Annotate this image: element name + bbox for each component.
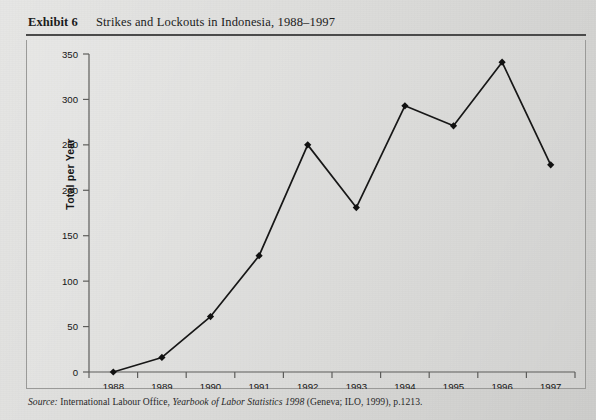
source-prefix: Source:: [28, 396, 58, 407]
y-axis-tick-label: 300: [62, 94, 78, 105]
data-point-markers: 1988: 01989: 161990: 611991: 1281992: 25…: [110, 59, 555, 376]
title-horizontal-rule: [26, 34, 586, 36]
x-axis-tick-label: 1993: [346, 381, 367, 389]
source-publisher: International Labour Office,: [60, 396, 170, 407]
data-point-marker: 1994: 293: [401, 102, 408, 109]
source-note: Source: International Labour Office, Yea…: [28, 396, 573, 407]
data-point-marker: 1997: 228: [547, 161, 554, 168]
y-axis-tick-label: 250: [62, 139, 78, 150]
x-axis-tick-label: 1996: [491, 381, 512, 389]
data-point-marker: 1988: 0: [110, 368, 117, 375]
exhibit-title-block: Exhibit 6Strikes and Lockouts in Indones…: [28, 12, 573, 34]
y-axis-ticks: 050100150200250300350: [62, 49, 89, 378]
y-axis-tick-label: 50: [67, 321, 78, 332]
x-axis-tick-label: 1997: [540, 381, 561, 389]
y-axis-tick-label: 350: [62, 49, 78, 60]
y-axis-tick-label: 150: [62, 230, 78, 241]
x-axis-tick-label: 1989: [151, 381, 172, 389]
x-axis-tick-label: 1988: [103, 381, 124, 389]
source-book-title: Yearbook of Labor Statistics 1998: [172, 396, 304, 407]
x-axis-tick-label: 1994: [394, 381, 416, 389]
source-imprint: (Geneva; ILO, 1999), p.1213.: [307, 396, 423, 407]
chart-axes: [89, 54, 575, 372]
line-chart-svg: 050100150200250300350 198819891990199119…: [27, 40, 587, 389]
exhibit-page: Exhibit 6Strikes and Lockouts in Indones…: [0, 0, 596, 420]
x-axis-tick-label: 1991: [248, 381, 269, 389]
exhibit-number-label: Exhibit 6: [28, 15, 78, 29]
data-series-line: [113, 62, 550, 372]
y-axis-tick-label: 0: [73, 367, 78, 378]
x-axis-tick-label: 1990: [200, 381, 221, 389]
y-axis-tick-label: 200: [62, 185, 78, 196]
x-axis-tick-label: 1995: [443, 381, 464, 389]
exhibit-title-text: Strikes and Lockouts in Indonesia, 1988–…: [96, 15, 335, 29]
y-axis-tick-label: 100: [62, 276, 78, 287]
x-axis-ticks: 1988198919901991199219931994199519961997: [89, 372, 575, 389]
chart-plot-frame: Total per Year 050100150200250300350 198…: [26, 40, 586, 389]
x-axis-tick-label: 1992: [297, 381, 318, 389]
